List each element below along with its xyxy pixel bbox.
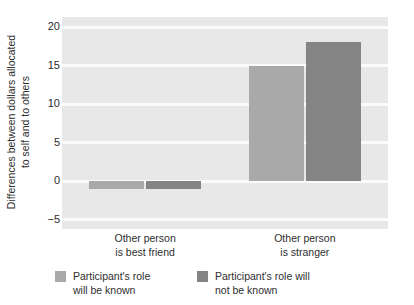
bar-role-known-group-1 bbox=[89, 181, 144, 189]
y-axis-tick-labels: 20151050−5 bbox=[30, 0, 60, 305]
bar-role-not-known-group-2 bbox=[306, 42, 361, 181]
plot-area bbox=[62, 17, 388, 229]
x-axis-category-label-2-line-1: Other person bbox=[235, 231, 375, 245]
legend-item-2[interactable]: Participant's role willnot be known bbox=[197, 269, 310, 297]
x-axis-category-label-1-line-1: Other person bbox=[75, 231, 215, 245]
legend-swatch-role-not-known bbox=[197, 271, 208, 282]
legend-label-1: Participant's rolewill be known bbox=[73, 269, 150, 297]
gridline bbox=[62, 218, 388, 221]
legend-label-1-line-2: will be known bbox=[73, 283, 150, 297]
y-axis-tick-label: 5 bbox=[34, 137, 60, 148]
x-axis-category-label-1: Other personis best friend bbox=[75, 231, 215, 259]
legend-label-1-line-1: Participant's role bbox=[73, 269, 150, 283]
x-axis-category-label-1-line-2: is best friend bbox=[75, 245, 215, 259]
chart-legend: Participant's rolewill be knownParticipa… bbox=[0, 269, 414, 305]
y-axis-tick-label: 20 bbox=[34, 21, 60, 32]
gridline bbox=[62, 26, 388, 29]
y-axis-tick-label: −5 bbox=[34, 214, 60, 225]
y-axis-tick-label: 15 bbox=[34, 60, 60, 71]
y-axis-tick-label: 10 bbox=[34, 98, 60, 109]
x-axis-category-label-2-line-2: is stranger bbox=[235, 245, 375, 259]
y-axis-tick-label: 0 bbox=[34, 175, 60, 186]
x-axis-category-label-2: Other personis stranger bbox=[235, 231, 375, 259]
legend-swatch-role-known bbox=[55, 271, 66, 282]
bar-role-known-group-2 bbox=[249, 66, 304, 182]
legend-label-2-line-1: Participant's role will bbox=[215, 269, 310, 283]
legend-item-1[interactable]: Participant's rolewill be known bbox=[55, 269, 150, 297]
y-axis-title-line-1: Differences between dollars allocated bbox=[5, 34, 19, 208]
legend-label-2: Participant's role willnot be known bbox=[215, 269, 310, 297]
legend-label-2-line-2: not be known bbox=[215, 283, 310, 297]
bar-role-not-known-group-1 bbox=[146, 181, 201, 189]
bar-chart-figure: Differences between dollars allocated to… bbox=[0, 0, 414, 305]
